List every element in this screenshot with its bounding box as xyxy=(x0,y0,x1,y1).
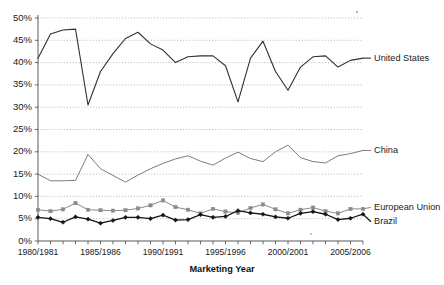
y-axis-tick-label: 50% xyxy=(13,12,33,23)
series-marker xyxy=(223,214,227,218)
series-marker xyxy=(173,218,177,222)
y-axis-tick-label: 25% xyxy=(13,123,33,134)
x-axis-title: Marketing Year xyxy=(189,264,255,274)
y-axis-tick-labels: 0%5%10%15%20%25%30%35%40%45%50% xyxy=(13,12,33,246)
series-marker xyxy=(99,209,102,212)
series-marker xyxy=(61,208,64,211)
series-marker xyxy=(261,212,265,216)
x-axis-tick-label: 2005/2006 xyxy=(330,247,371,257)
series-marker xyxy=(73,215,77,219)
series-marker xyxy=(273,215,277,219)
series-label-china: China xyxy=(374,145,399,155)
chart-plot-area: 0%5%10%15%20%25%30%35%40%45%50% 1980/198… xyxy=(0,0,444,285)
series-marker xyxy=(349,207,352,210)
series-marker xyxy=(98,221,102,225)
stray-speck-icon xyxy=(356,11,358,13)
series-marker xyxy=(174,205,177,208)
series-marker xyxy=(124,209,127,212)
series-marker xyxy=(248,211,252,215)
series-marker xyxy=(74,201,77,204)
stray-speck-icon xyxy=(310,233,312,235)
series-marker xyxy=(111,218,115,222)
series-marker xyxy=(86,208,89,211)
y-axis-tick-label: 0% xyxy=(18,235,32,246)
series-label-leader xyxy=(363,214,371,222)
series-marker xyxy=(61,220,65,224)
series-marker xyxy=(111,209,114,212)
y-axis-tick-label: 35% xyxy=(13,78,33,89)
series-marker xyxy=(123,215,127,219)
series-marker xyxy=(336,212,339,215)
x-axis-tick-labels: 1980/19811985/19861990/19911995/19962000… xyxy=(18,247,371,257)
series-marker xyxy=(298,211,302,215)
series-marker xyxy=(311,209,315,213)
series-marker xyxy=(274,208,277,211)
series-label-leaders xyxy=(363,58,371,222)
series-marker xyxy=(211,207,214,210)
series-label-european-union: European Union xyxy=(374,202,440,212)
series-marker xyxy=(186,208,189,211)
series-marker xyxy=(261,203,264,206)
gridlines xyxy=(38,18,363,219)
series-labels: United StatesChinaEuropean UnionBrazil xyxy=(374,53,440,227)
series-marker xyxy=(49,209,52,212)
series-line xyxy=(38,145,363,182)
series-marker xyxy=(311,206,314,209)
x-axis-tick-label: 1995/1996 xyxy=(205,247,246,257)
series-marker xyxy=(161,213,165,217)
series-marker xyxy=(211,215,215,219)
series-brazil xyxy=(36,209,365,226)
y-axis-tick-label: 45% xyxy=(13,34,33,45)
x-axis-tick-label: 1985/1986 xyxy=(80,247,121,257)
series-marker xyxy=(336,217,340,221)
y-axis-tick-label: 40% xyxy=(13,56,33,67)
series-marker xyxy=(348,216,352,220)
series-marker xyxy=(224,210,227,213)
x-axis-tick-label: 1980/1981 xyxy=(18,247,59,257)
series-marker xyxy=(136,215,140,219)
series-china xyxy=(38,145,363,182)
series-label-brazil: Brazil xyxy=(374,216,397,226)
series-marker xyxy=(136,207,139,210)
series-marker xyxy=(286,216,290,220)
series-marker xyxy=(149,204,152,207)
y-axis-tick-label: 10% xyxy=(13,190,33,201)
y-axis-tick-label: 15% xyxy=(13,168,33,179)
series-marker xyxy=(148,217,152,221)
series-label-united-states: United States xyxy=(374,53,430,63)
y-axis-tick-label: 5% xyxy=(18,212,32,223)
y-axis-tick-label: 20% xyxy=(13,145,33,156)
x-axis-tick-label: 1990/1991 xyxy=(143,247,184,257)
series-marker xyxy=(286,212,289,215)
y-axis-tick-label: 30% xyxy=(13,101,33,112)
series-marker xyxy=(36,208,39,211)
series-marker xyxy=(48,217,52,221)
series-marker xyxy=(161,199,164,202)
series-marker xyxy=(249,206,252,209)
line-chart-container: 0%5%10%15%20%25%30%35%40%45%50% 1980/198… xyxy=(0,0,444,285)
series-marker xyxy=(86,217,90,221)
data-series xyxy=(36,29,365,225)
series-marker xyxy=(186,217,190,221)
x-axis-tick-label: 2000/2001 xyxy=(268,247,309,257)
